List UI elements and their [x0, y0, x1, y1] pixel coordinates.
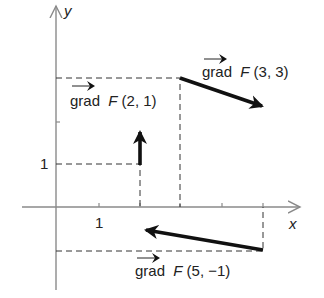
x-tick-label-1: 1 [95, 214, 103, 231]
guide-point-2-1 [56, 164, 140, 207]
label-function: F [173, 262, 183, 279]
label-function: F [240, 63, 250, 80]
vector-grad-F-5-neg1 [146, 230, 263, 250]
label-prefix: grad [135, 262, 165, 279]
y-tick-label-1: 1 [40, 155, 48, 172]
svg-text:grad F (5, −1): grad F (5, −1) [135, 262, 230, 279]
label-args: (2, 1) [122, 92, 157, 109]
label-prefix: grad [202, 63, 232, 80]
label-args: (3, 3) [254, 63, 289, 80]
label-grad-F-5-neg1: grad F (5, −1) [135, 258, 230, 279]
label-args: (5, −1) [187, 262, 231, 279]
x-axis-label: x [288, 215, 297, 232]
diagram-canvas: y x 1 1 grad F (2, 1) grad F (3, 3) grad… [0, 0, 324, 298]
svg-text:grad F (3, 3): grad F (3, 3) [202, 63, 289, 80]
label-grad-F-3-3: grad F (3, 3) [202, 59, 289, 80]
label-prefix: grad [70, 92, 100, 109]
gradient-diagram: y x 1 1 grad F (2, 1) grad F (3, 3) grad… [0, 0, 324, 298]
y-axis-label: y [63, 2, 73, 19]
vector-grad-F-3-3 [180, 78, 262, 106]
label-function: F [108, 92, 118, 109]
label-grad-F-2-1: grad F (2, 1) [70, 86, 157, 109]
svg-text:grad F (2, 1): grad F (2, 1) [70, 92, 157, 109]
